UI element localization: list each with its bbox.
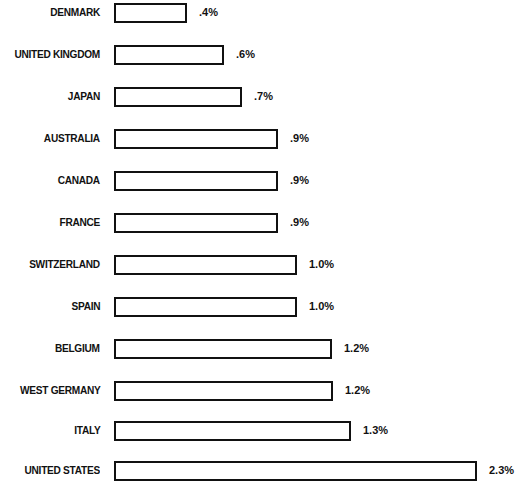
bar — [114, 339, 332, 359]
chart-row-france: FRANCE .9% — [0, 212, 520, 236]
value-label: 1.2% — [345, 384, 370, 396]
bar — [114, 255, 297, 275]
category-label: FRANCE — [59, 216, 100, 228]
value-label: 1.3% — [363, 424, 388, 436]
category-label: AUSTRALIA — [44, 132, 100, 144]
bar — [114, 461, 477, 481]
value-label: .9% — [290, 216, 309, 228]
category-label: WEST GERMANY — [20, 384, 100, 396]
bar — [114, 45, 224, 65]
chart-row-west-germany: WEST GERMANY 1.2% — [0, 380, 520, 404]
chart-row-japan: JAPAN .7% — [0, 86, 520, 110]
category-label: UNITED STATES — [25, 464, 100, 476]
bar — [114, 171, 278, 191]
chart-row-canada: CANADA .9% — [0, 170, 520, 194]
bar — [114, 421, 351, 441]
bar — [114, 129, 278, 149]
chart-row-spain: SPAIN 1.0% — [0, 296, 520, 320]
category-label: SWITZERLAND — [29, 258, 100, 270]
bar — [114, 87, 242, 107]
category-label: UNITED KINGDOM — [14, 48, 100, 60]
category-label: DENMARK — [50, 6, 100, 18]
value-label: .9% — [290, 132, 309, 144]
value-label: 1.2% — [344, 342, 369, 354]
chart-row-belgium: BELGIUM 1.2% — [0, 338, 520, 362]
chart-row-denmark: DENMARK .4% — [0, 2, 520, 26]
chart-row-australia: AUSTRALIA .9% — [0, 128, 520, 152]
bar — [114, 3, 187, 23]
chart-row-united-kingdom: UNITED KINGDOM .6% — [0, 44, 520, 68]
value-label: .4% — [199, 6, 218, 18]
chart-row-italy: ITALY 1.3% — [0, 420, 520, 444]
category-label: JAPAN — [68, 90, 100, 102]
value-label: .6% — [236, 48, 255, 60]
category-label: ITALY — [74, 424, 100, 436]
value-label: 2.3% — [489, 464, 514, 476]
value-label: 1.0% — [309, 300, 334, 312]
value-label: .9% — [290, 174, 309, 186]
bar — [114, 213, 278, 233]
chart-row-united-states: UNITED STATES 2.3% — [0, 460, 520, 484]
category-label: CANADA — [58, 174, 100, 186]
bar-chart: DENMARK .4% UNITED KINGDOM .6% JAPAN .7%… — [0, 0, 520, 491]
category-label: BELGIUM — [55, 342, 100, 354]
value-label: .7% — [254, 90, 273, 102]
value-label: 1.0% — [309, 258, 334, 270]
bar — [114, 297, 297, 317]
chart-row-switzerland: SWITZERLAND 1.0% — [0, 254, 520, 278]
category-label: SPAIN — [71, 300, 100, 312]
bar — [114, 381, 333, 401]
